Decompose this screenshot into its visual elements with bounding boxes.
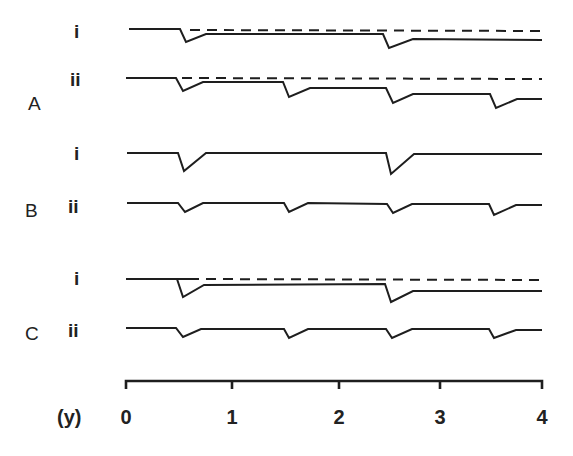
axis-tick-label-4: 4 bbox=[536, 406, 548, 428]
row-label-c-ii: ii bbox=[68, 320, 79, 341]
panel-b: B i ii bbox=[25, 143, 542, 221]
reference-line-c-i bbox=[189, 279, 542, 280]
axis-tick-label-0: 0 bbox=[120, 406, 131, 428]
row-label-a-i: i bbox=[74, 21, 79, 42]
axis-tick-label-3: 3 bbox=[434, 406, 445, 428]
row-label-b-ii: ii bbox=[68, 196, 79, 217]
trace-a-ii bbox=[126, 78, 542, 108]
axis-tick-label-1: 1 bbox=[226, 406, 237, 428]
panel-a: A i ii bbox=[28, 21, 542, 114]
time-axis: (y) 0 1 2 3 4 bbox=[57, 381, 548, 428]
trace-c-ii bbox=[126, 328, 542, 338]
row-label-b-i: i bbox=[74, 143, 79, 164]
trace-a-i bbox=[129, 29, 542, 48]
trace-b-i bbox=[127, 153, 542, 174]
panel-label-a: A bbox=[28, 93, 41, 114]
panel-label-b: B bbox=[25, 200, 38, 221]
reference-line-a-i bbox=[190, 30, 542, 31]
axis-line bbox=[126, 381, 542, 389]
row-label-a-ii: ii bbox=[70, 69, 81, 90]
axis-tick-label-2: 2 bbox=[333, 406, 344, 428]
panel-c: C i ii bbox=[25, 268, 542, 344]
trace-b-ii bbox=[127, 203, 542, 215]
row-label-c-i: i bbox=[74, 268, 79, 289]
trace-c-i bbox=[177, 279, 542, 302]
reference-line-a-ii bbox=[182, 78, 542, 79]
panel-label-c: C bbox=[25, 323, 39, 344]
axis-unit-label: (y) bbox=[57, 406, 81, 428]
trace-diagram: A i ii B i ii C i ii (y) bbox=[0, 0, 573, 456]
